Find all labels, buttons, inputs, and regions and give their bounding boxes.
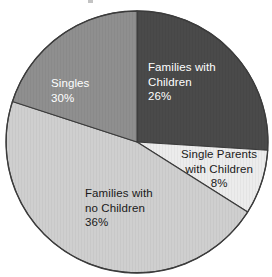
pie-chart-figure: Families with Children 26% Singles 30% S… [0,0,272,277]
pie-slice-families-with-children[interactable] [137,11,268,150]
pie-chart-svg [0,0,272,277]
pie-slice-texture-families-with-children [137,11,268,150]
